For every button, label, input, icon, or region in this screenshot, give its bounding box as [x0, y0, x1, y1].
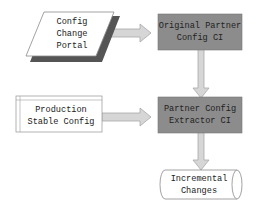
arrow-extractor-to-incremental — [193, 132, 209, 170]
node-production-stable-config: Production Stable Config — [16, 96, 102, 132]
node-label-line: Incremental — [171, 174, 228, 184]
arrow-original-to-extractor — [193, 49, 209, 98]
node-label-line: Partner Config — [164, 104, 236, 114]
node-partner-config-extractor-ci: Partner Config Extractor CI — [158, 97, 242, 133]
arrow-production-to-extractor — [102, 108, 151, 126]
node-label-line: Changes — [181, 186, 217, 196]
node-label-line: Change — [57, 29, 88, 39]
node-incremental-changes: Incremental Changes — [160, 170, 242, 199]
node-label-line: Production — [35, 105, 87, 115]
node-label-line: Portal — [57, 41, 88, 51]
node-config-change-portal: Config Change Portal — [26, 12, 120, 62]
node-label-line: Config CI — [177, 33, 223, 43]
node-original-partner-config-ci: Original Partner Config CI — [158, 14, 242, 50]
node-label-line: Config — [57, 17, 88, 27]
node-label-line: Original Partner — [159, 21, 242, 31]
flow-diagram: Config Change Portal Original Partner Co… — [0, 0, 256, 211]
node-label-line: Stable Config — [27, 117, 94, 127]
node-label-line: Extractor CI — [169, 116, 231, 126]
